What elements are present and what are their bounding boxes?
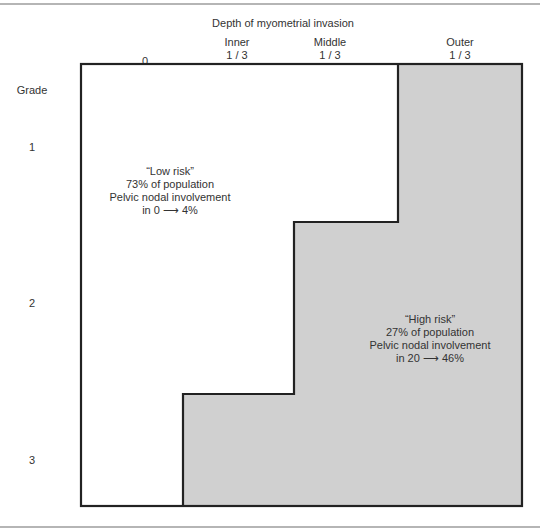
- high-risk-range: in 20 ⟶ 46%: [360, 352, 500, 365]
- high-risk-label: “High risk”: [360, 313, 500, 326]
- high-risk-nodal: Pelvic nodal involvement: [360, 339, 500, 352]
- risk-step-diagram: [0, 0, 549, 532]
- low-risk-range: in 0 ⟶ 4%: [100, 204, 240, 217]
- low-risk-population: 73% of population: [100, 178, 240, 191]
- high-risk-text: “High risk” 27% of population Pelvic nod…: [360, 313, 500, 365]
- high-risk-population: 27% of population: [360, 326, 500, 339]
- low-risk-label: “Low risk”: [100, 165, 240, 178]
- low-risk-text: “Low risk” 73% of population Pelvic noda…: [100, 165, 240, 217]
- low-risk-nodal: Pelvic nodal involvement: [100, 191, 240, 204]
